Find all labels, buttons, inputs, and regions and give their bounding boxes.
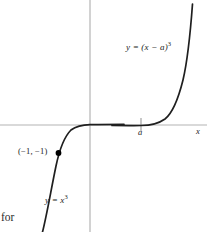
point-label-minus-one: (−1, −1)	[18, 147, 48, 156]
cubic-translation-figure: y = (x − a)3 y = x3 (−1, −1) a x for	[0, 0, 214, 232]
curve-label-shifted-prefix: y = (x	[126, 42, 151, 52]
body-text-fragment: for	[1, 212, 14, 224]
x-tick-label-a: a	[138, 128, 142, 137]
curve-label-base-exponent: 3	[65, 193, 68, 200]
curve-label-shifted-exponent: 3	[168, 40, 171, 47]
curve-y-equals-x-minus-a-cubed	[112, 4, 193, 126]
curve-label-shifted: y = (x − a)3	[126, 41, 171, 52]
curve-y-equals-x-cubed	[43, 124, 125, 232]
curve-label-base: y = x3	[45, 194, 68, 205]
plot-canvas	[0, 0, 214, 232]
marked-point-minus-one	[56, 150, 62, 156]
x-axis-label: x	[196, 127, 200, 136]
curve-label-base-text: y = x	[45, 195, 65, 205]
curve-label-shifted-mid: a)	[158, 42, 168, 52]
